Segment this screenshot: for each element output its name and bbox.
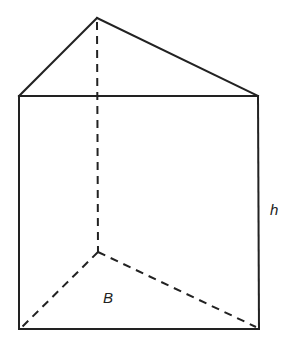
base-label: B — [103, 289, 113, 306]
top-left-edge — [19, 18, 97, 96]
hidden-bottom-left-edge — [22, 252, 98, 327]
hidden-bottom-right-edge — [98, 252, 256, 327]
height-label: h — [270, 201, 278, 218]
hidden-vertical-edge — [97, 22, 98, 252]
right-vertical-edge — [258, 96, 259, 329]
prism-diagram: h B — [0, 0, 294, 348]
top-right-edge — [97, 18, 258, 96]
